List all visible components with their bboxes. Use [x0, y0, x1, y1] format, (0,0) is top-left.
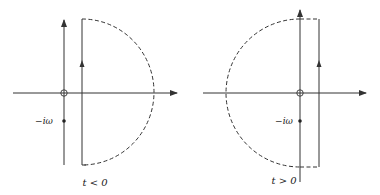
condition-label: t < 0: [82, 177, 108, 188]
contour-arrow-icon: [80, 60, 85, 67]
contour-diagram: −iω t < 0 −iω t > 0: [0, 0, 380, 195]
contour-arc: [82, 19, 154, 165]
pole-dot: [62, 119, 66, 123]
pole-label: −iω: [275, 116, 293, 126]
condition-label: t > 0: [271, 175, 297, 186]
right-panel: −iω t > 0: [203, 10, 366, 186]
left-panel: −iω t < 0: [13, 19, 177, 188]
contour-arrow-icon: [317, 60, 322, 67]
pole-label: −iω: [35, 116, 53, 126]
pole-dot: [298, 119, 302, 123]
